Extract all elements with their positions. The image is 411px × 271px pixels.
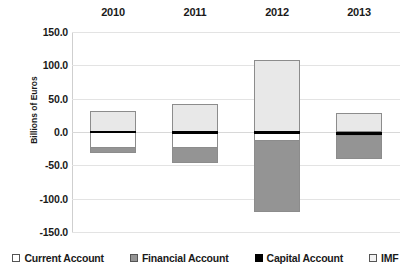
bar-group[interactable] <box>336 32 382 232</box>
plot-area <box>72 32 400 232</box>
bar-segment-capital-account[interactable] <box>172 131 218 134</box>
bar-segment-imf[interactable] <box>172 104 218 132</box>
bar-group[interactable] <box>172 32 218 232</box>
y-axis-tick-label: -150.0 <box>6 226 68 238</box>
y-axis-tick-label: 50.0 <box>6 93 68 105</box>
legend-label: Financial Account <box>142 252 229 264</box>
legend-swatch-icon <box>12 254 20 262</box>
legend-swatch-icon <box>130 254 138 262</box>
legend-item[interactable]: IMF <box>369 252 398 264</box>
bar-segment-financial-account[interactable] <box>336 135 382 159</box>
bar-segment-capital-account[interactable] <box>254 131 300 134</box>
x-axis-category-labels: 2010201120122013 <box>72 6 400 26</box>
bar-segment-imf[interactable] <box>254 60 300 132</box>
x-axis-category-label: 2010 <box>101 6 125 18</box>
legend-swatch-icon <box>369 254 377 262</box>
legend-item[interactable]: Current Account <box>12 252 103 264</box>
legend-item[interactable]: Financial Account <box>130 252 229 264</box>
bar-segment-financial-account[interactable] <box>254 140 300 212</box>
x-axis-category-label: 2011 <box>183 6 206 18</box>
y-axis-tick-label: 0.0 <box>6 126 68 138</box>
bar-segment-capital-account[interactable] <box>336 132 382 135</box>
bar-group[interactable] <box>90 32 136 232</box>
bar-group[interactable] <box>254 32 300 232</box>
legend-swatch-icon <box>255 254 263 262</box>
bar-segment-imf[interactable] <box>336 113 382 132</box>
y-axis-tick-label: -100.0 <box>6 193 68 205</box>
bar-segment-financial-account[interactable] <box>172 147 218 163</box>
y-axis-tick-labels: 150.0100.050.00.0-50.0-100.0-150.0 <box>0 0 68 271</box>
x-axis-category-label: 2013 <box>347 6 371 18</box>
legend-label: Current Account <box>24 252 103 264</box>
bar-segment-capital-account[interactable] <box>90 131 136 134</box>
chart-container: Billions of Euros 150.0100.050.00.0-50.0… <box>0 0 411 271</box>
legend-label: IMF <box>381 252 398 264</box>
bar-segment-financial-account[interactable] <box>90 147 136 153</box>
y-axis-tick-label: 100.0 <box>6 59 68 71</box>
y-axis-tick-label: -50.0 <box>6 159 68 171</box>
legend-item[interactable]: Capital Account <box>255 252 344 264</box>
y-axis-tick-label: 150.0 <box>6 26 68 38</box>
bar-segment-imf[interactable] <box>90 111 136 132</box>
legend-label: Capital Account <box>267 252 344 264</box>
gridline <box>72 232 400 233</box>
bar-segment-current-account[interactable] <box>172 134 218 147</box>
chart-legend: Current AccountFinancial AccountCapital … <box>0 248 411 268</box>
x-axis-category-label: 2012 <box>265 6 289 18</box>
bar-segment-current-account[interactable] <box>90 133 136 147</box>
